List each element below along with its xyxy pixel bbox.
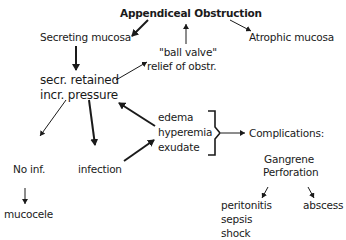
node-no-infection: No inf.: [13, 163, 45, 175]
node-mucocele: mucocele: [4, 208, 53, 220]
title-appendiceal-obstruction: Appendiceal Obstruction: [120, 7, 262, 19]
arrow-obstruction-to-atrophic: [230, 20, 251, 31]
node-secr-retained: secr. retained: [40, 73, 119, 87]
node-gangrene: Gangrene: [264, 153, 314, 165]
node-incr-pressure: incr. pressure: [40, 88, 118, 102]
node-shock: shock: [221, 227, 250, 239]
node-ball-valve: "ball valve": [159, 46, 217, 58]
node-complications: Complications:: [249, 127, 324, 139]
node-secreting-mucosa: Secreting mucosa: [40, 31, 131, 43]
arrow-edema-to-pressure: [119, 103, 155, 126]
node-perforation: Perforation: [263, 166, 319, 178]
arrow-perforation-to-peritonitis: [262, 187, 268, 198]
node-hyperemia: hyperemia: [158, 126, 212, 138]
node-peritonitis: peritonitis: [221, 199, 272, 211]
node-edema: edema: [158, 111, 193, 123]
arrow-retained-to-ballvalve: [116, 62, 147, 80]
arrow-perforation-to-abscess: [308, 187, 314, 198]
arrow-pressure-to-noinf: [40, 100, 66, 136]
arrow-obstruction-to-secreting: [132, 20, 148, 36]
node-sepsis: sepsis: [221, 213, 252, 225]
arrow-pressure-to-infection: [89, 100, 95, 145]
node-abscess: abscess: [303, 199, 343, 211]
node-atrophic-mucosa: Atrophic mucosa: [249, 31, 334, 43]
node-relief-of-obstruction: relief of obstr.: [147, 60, 217, 72]
arrow-infection-to-exudate: [124, 140, 154, 161]
node-exudate: exudate: [158, 141, 199, 153]
node-infection: infection: [78, 163, 122, 175]
